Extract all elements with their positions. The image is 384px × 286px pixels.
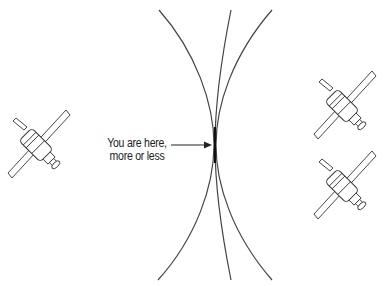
diagram-canvas [0,0,384,286]
pointer-arrow-head [204,142,212,149]
satellite-left-icon [8,110,70,178]
annotation-line-2: more or less [104,150,169,163]
satellite-right-bottom-icon [314,151,376,219]
satellite-right-top-icon [314,71,376,139]
range-curve-right [216,10,272,280]
gps-trilateration-diagram: You are here, more or less [0,0,384,286]
range-curve-middle [215,10,231,280]
